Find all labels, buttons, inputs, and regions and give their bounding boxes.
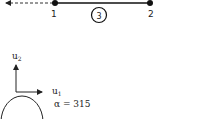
node-1-label: 1 <box>51 9 57 19</box>
angle-label: α = 315 <box>54 99 91 109</box>
angle-rotation-arc <box>1 96 43 119</box>
truss-diagram: 1 2 3 u2 u1 α = 315 <box>0 0 216 119</box>
u2-axis-label: u2 <box>12 51 22 62</box>
u1-axis-label: u1 <box>52 86 62 97</box>
node-1-dot <box>52 0 58 6</box>
node-2-label: 2 <box>148 9 154 19</box>
element-number-label: 3 <box>97 12 102 21</box>
node-2-dot <box>147 0 153 6</box>
